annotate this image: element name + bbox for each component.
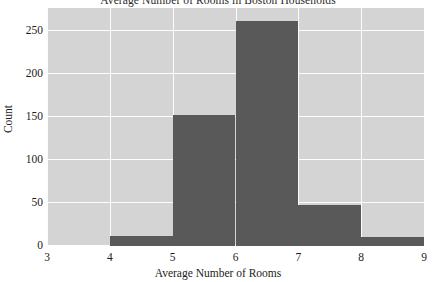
y-axis-tick-label: 250 — [3, 25, 43, 37]
chart-title: Average Number of Rooms in Boston Househ… — [0, 0, 436, 6]
y-axis-tick-label: 0 — [3, 240, 43, 252]
x-axis-tick-labels: 3456789 — [47, 252, 424, 266]
bar — [298, 205, 361, 246]
gridline-vertical — [361, 8, 362, 246]
x-axis-tick-label: 9 — [409, 252, 436, 264]
y-axis-tick-label: 50 — [3, 197, 43, 209]
histogram-figure: Average Number of Rooms in Boston Househ… — [0, 0, 436, 282]
y-axis-title: Count — [2, 89, 14, 149]
x-axis-tick-label: 5 — [158, 252, 188, 264]
x-axis-title: Average Number of Rooms — [0, 267, 436, 279]
bar — [236, 21, 299, 246]
gridline-vertical — [110, 8, 111, 246]
x-axis-tick-label: 6 — [221, 252, 251, 264]
gridline-vertical — [47, 8, 48, 246]
plot-area — [47, 8, 424, 246]
bar — [110, 236, 173, 246]
bar — [361, 237, 424, 246]
x-axis-tick-label: 3 — [32, 252, 62, 264]
x-axis-tick-label: 7 — [283, 252, 313, 264]
y-axis-tick-label: 200 — [3, 68, 43, 80]
x-axis-tick-label: 4 — [95, 252, 125, 264]
x-axis-tick-label: 8 — [346, 252, 376, 264]
bar — [173, 115, 236, 246]
y-axis-tick-label: 100 — [3, 154, 43, 166]
